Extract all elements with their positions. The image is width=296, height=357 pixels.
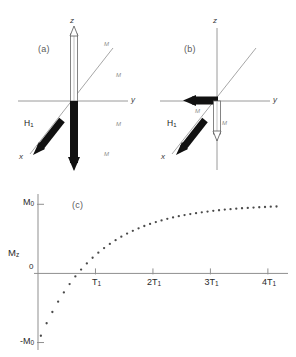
panel-b-h1-label: H1 (167, 118, 176, 128)
chart-data-point (80, 268, 82, 270)
chart-data-point (155, 221, 157, 223)
chart-tag: (c) (72, 200, 83, 210)
chart-data-series (40, 205, 278, 337)
chart-data-point (143, 225, 145, 227)
vector-magnetization-down (68, 101, 80, 171)
chart-xtick-label-2: 3T1 (204, 277, 218, 287)
chart-data-point (74, 275, 76, 277)
chart-data-point (235, 208, 237, 210)
panel-a-tiny-label-bottom-right: M (104, 151, 109, 157)
chart-data-point (189, 213, 191, 215)
chart-data-point (275, 205, 277, 207)
panel-a-svg (0, 4, 150, 176)
chart-data-point (264, 206, 266, 208)
vector-magnetization-down-outline (213, 101, 221, 141)
chart-data-point (183, 214, 185, 216)
chart-data-point (206, 210, 208, 212)
chart-data-point (195, 212, 197, 214)
vector-magnetization-up-outline (70, 26, 78, 101)
chart-data-point (241, 207, 243, 209)
chart-xtick-label-1: 2T1 (147, 277, 161, 287)
panel-b-axis-label-z: z (213, 16, 217, 25)
chart-xtick-label-0: T1 (92, 277, 101, 287)
chart-data-point (86, 262, 88, 264)
panel-a-h1-label: H1 (24, 118, 33, 128)
chart-data-point (166, 218, 168, 220)
chart-data-point (172, 216, 174, 218)
chart-data-point (258, 206, 260, 208)
chart-data-point (45, 322, 47, 324)
panel-a-tiny-label-upper-diag: M (104, 41, 109, 47)
chart-data-point (252, 206, 254, 208)
panel-a-axis-label-z: z (70, 16, 74, 25)
chart-ytick-label-2: -M0 (20, 336, 34, 346)
chart-ylabel-mz: Mz (8, 247, 19, 258)
chart-data-point (126, 232, 128, 234)
panel-b-tiny-label-center: M (222, 120, 227, 126)
vector-h1-field (33, 120, 62, 155)
chart-plot-area (0, 178, 296, 357)
panel-b-vector-diagram: (b) z y x H1 M M (150, 4, 296, 176)
panel-a-tiny-label-lower-right: M (116, 121, 121, 127)
panel-b-tag: (b) (184, 44, 196, 54)
chart-data-point (178, 215, 180, 217)
chart-data-point (132, 230, 134, 232)
chart-ytick-label-0: M0 (23, 197, 34, 207)
chart-data-point (103, 247, 105, 249)
chart-data-point (51, 311, 53, 313)
figure-root: (a) z y x H1 M M M M (0, 0, 296, 357)
panel-c-recovery-chart: (c) M00-M0MzT12T13T14T1 (0, 178, 296, 357)
chart-data-point (270, 206, 272, 208)
chart-xtick-label-3: 4T1 (262, 277, 276, 287)
panel-b-tiny-label-left-diag: M (195, 108, 200, 114)
chart-data-point (97, 252, 99, 254)
panel-a-axis-label-y: y (131, 95, 135, 104)
vector-h1-field (176, 120, 205, 155)
chart-data-point (40, 335, 42, 337)
chart-data-point (114, 239, 116, 241)
chart-data-point (68, 283, 70, 285)
chart-data-point (224, 208, 226, 210)
chart-data-point (149, 223, 151, 225)
chart-origin-label: 0 (29, 262, 33, 271)
chart-data-point (201, 211, 203, 213)
panel-b-axis-label-y: y (273, 95, 277, 104)
chart-data-point (229, 208, 231, 210)
panel-a-axis-label-x: x (19, 152, 23, 161)
chart-data-point (120, 236, 122, 238)
chart-data-point (57, 301, 59, 303)
chart-data-point (212, 210, 214, 212)
chart-data-point (63, 291, 65, 293)
vector-magnetization-minus-y (183, 95, 218, 106)
chart-data-point (137, 227, 139, 229)
panel-a-tiny-label-mid-right: M (116, 72, 121, 78)
panel-a-tag: (a) (38, 44, 50, 54)
chart-data-point (160, 219, 162, 221)
panel-b-axis-label-x: x (161, 152, 165, 161)
chart-data-point (109, 243, 111, 245)
chart-data-point (247, 207, 249, 209)
chart-data-point (91, 257, 93, 259)
panel-a-vector-diagram: (a) z y x H1 M M M M (0, 4, 150, 176)
chart-data-point (218, 209, 220, 211)
panel-b-svg (150, 4, 296, 176)
